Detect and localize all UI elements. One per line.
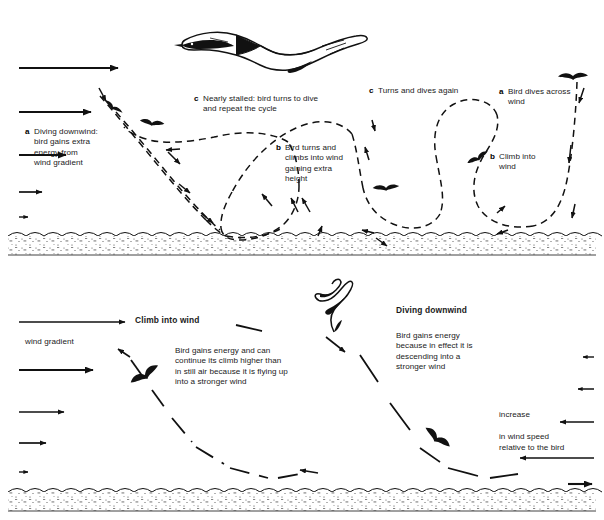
label-a-diving-downwind: Diving downwind: bird gains extra energy… — [34, 127, 130, 169]
heading-climb-into-wind: Climb into wind — [135, 315, 245, 325]
key-a-bird-dives-across: a — [499, 87, 504, 96]
bottom-sea-surface — [8, 489, 602, 512]
label-b-bird-turns-climbs: Bird turns and climbs into wind gaining … — [285, 143, 365, 185]
key-b-climb-into-wind: b — [490, 152, 495, 161]
heading-diving-downwind: Diving downwind — [396, 305, 516, 315]
key-c-turns-dives-again: c — [369, 86, 374, 95]
label-wind-gradient: wind gradient — [25, 337, 105, 347]
label-c-nearly-stalled: Nearly stalled: bird turns to dive and r… — [203, 94, 353, 115]
label-c-turns-dives-again: Turns and dives again — [378, 86, 488, 96]
dynamic-soaring-figure: a Diving downwind: bird gains extra ener… — [0, 0, 604, 520]
label-climb-into-wind-body: Bird gains energy and can continue its c… — [175, 346, 353, 388]
key-b-bird-turns: b — [276, 143, 281, 152]
label-a-bird-dives-across-wind: Bird dives across wind — [508, 87, 593, 108]
label-relative-wind-increase: increase — [499, 410, 559, 420]
label-b-climb-into-wind: Climb into wind — [499, 152, 559, 173]
label-relative-wind-speed: in wind speed — [499, 432, 579, 442]
bottom-relative-wind-arrows — [520, 357, 594, 484]
top-sea-surface — [8, 233, 602, 256]
key-a-top-left: a — [25, 127, 30, 136]
key-c-nearly-stalled: c — [194, 94, 199, 103]
label-diving-downwind-body: Bird gains energy because in effect it i… — [396, 331, 516, 373]
large-albatross-illustration — [174, 32, 367, 73]
label-relative-wind-to-bird: relative to the bird — [499, 443, 599, 453]
